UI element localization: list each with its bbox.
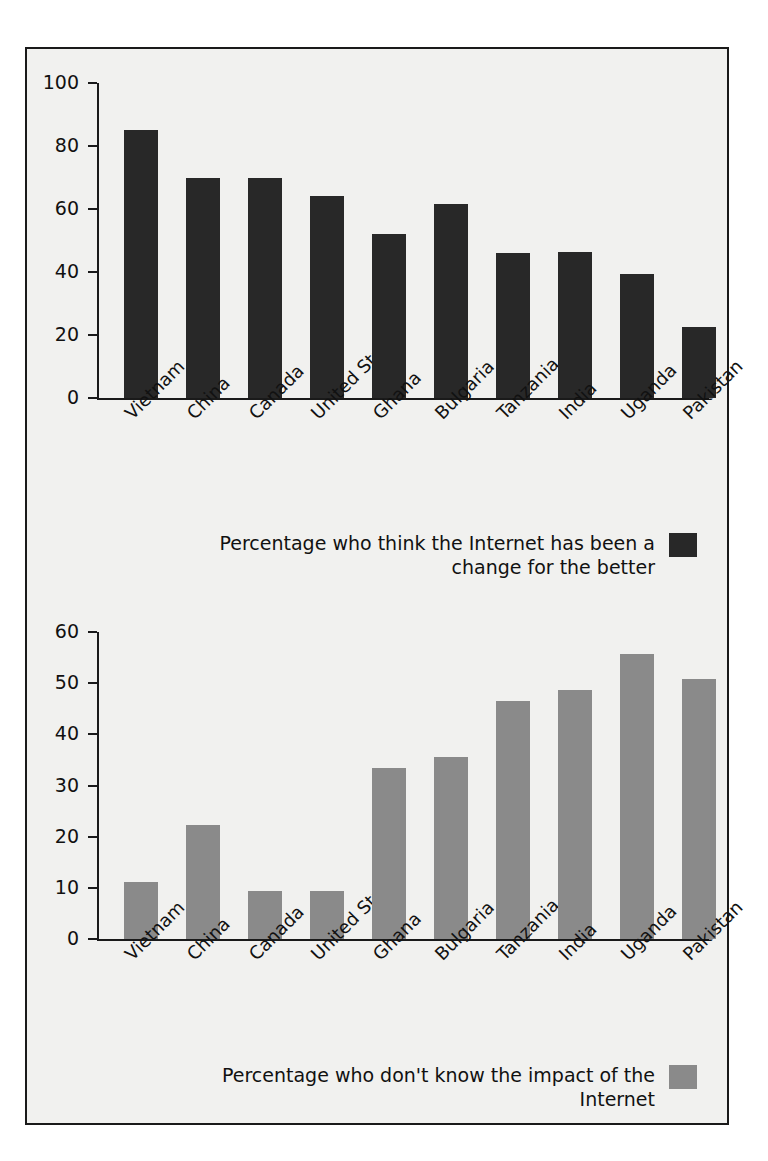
legend-label-top-line1: Percentage who think the Internet has be… xyxy=(219,531,655,555)
y-tick-label: 10 xyxy=(19,878,79,897)
y-tick-mark xyxy=(88,397,97,399)
bar xyxy=(124,130,158,398)
bar xyxy=(496,701,530,939)
y-tick-mark xyxy=(88,836,97,838)
bar xyxy=(682,679,716,939)
y-axis-line xyxy=(97,632,99,941)
bar xyxy=(248,178,282,399)
y-tick-mark xyxy=(88,82,97,84)
y-tick-label: 100 xyxy=(19,73,79,92)
legend-internet-dont-know-impact: Percentage who don't know the impact of … xyxy=(177,1063,697,1112)
y-tick-label: 40 xyxy=(19,724,79,743)
y-tick-mark xyxy=(88,631,97,633)
plot-area-bottom: 0102030405060VietnamChinaCanadaUnited St… xyxy=(97,632,707,939)
y-tick-mark xyxy=(88,334,97,336)
y-tick-mark xyxy=(88,938,97,940)
bar xyxy=(558,252,592,398)
bar xyxy=(434,204,468,398)
y-tick-mark xyxy=(88,785,97,787)
bar xyxy=(372,768,406,939)
y-tick-label: 0 xyxy=(19,388,79,407)
y-tick-label: 60 xyxy=(19,622,79,641)
legend-internet-change-for-the-better: Percentage who think the Internet has be… xyxy=(177,531,697,580)
y-tick-mark xyxy=(88,208,97,210)
y-tick-label: 0 xyxy=(19,929,79,948)
y-axis-line xyxy=(97,83,99,400)
bar xyxy=(558,690,592,939)
y-tick-label: 20 xyxy=(19,325,79,344)
bar xyxy=(620,654,654,940)
y-tick-mark xyxy=(88,887,97,889)
bar xyxy=(186,178,220,399)
y-tick-mark xyxy=(88,145,97,147)
figure-frame: 020406080100VietnamChinaCanadaUnited Sta… xyxy=(25,47,729,1125)
y-tick-mark xyxy=(88,733,97,735)
bar xyxy=(372,234,406,398)
legend-label-bottom-line1: Percentage who don't know the impact of … xyxy=(177,1063,655,1112)
legend-swatch-dark xyxy=(669,533,697,557)
y-tick-label: 40 xyxy=(19,262,79,281)
y-tick-label: 50 xyxy=(19,673,79,692)
legend-label-top: Percentage who think the Internet has be… xyxy=(219,531,669,580)
legend-label-bottom: Percentage who don't know the impact of … xyxy=(177,1063,669,1112)
plot-area-top: 020406080100VietnamChinaCanadaUnited Sta… xyxy=(97,83,707,398)
y-tick-label: 30 xyxy=(19,776,79,795)
y-tick-mark xyxy=(88,271,97,273)
bar xyxy=(310,196,344,398)
legend-swatch-gray xyxy=(669,1065,697,1089)
bar xyxy=(434,757,468,939)
legend-label-top-line2: change for the better xyxy=(219,555,655,579)
y-tick-label: 60 xyxy=(19,199,79,218)
y-tick-mark xyxy=(88,682,97,684)
y-tick-label: 20 xyxy=(19,827,79,846)
y-tick-label: 80 xyxy=(19,136,79,155)
